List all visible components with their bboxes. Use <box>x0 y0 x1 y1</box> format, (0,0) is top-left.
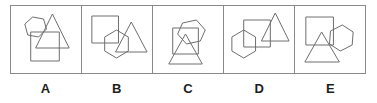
option-label-e: E <box>295 79 366 99</box>
shape-group-d <box>224 6 294 73</box>
option-panel-e[interactable] <box>295 6 365 73</box>
shape-group-b <box>82 6 152 73</box>
shape-group-a <box>11 6 81 73</box>
option-panel-c[interactable] <box>153 6 224 73</box>
option-label-a: A <box>10 79 81 99</box>
option-label-c: C <box>152 79 223 99</box>
option-panel-b[interactable] <box>82 6 153 73</box>
option-panel-strip <box>10 5 366 74</box>
option-panel-a[interactable] <box>11 6 82 73</box>
option-panel-d[interactable] <box>224 6 295 73</box>
triangle-shape <box>36 14 70 48</box>
shape-group-c <box>153 6 223 73</box>
square-shape <box>244 20 271 47</box>
option-label-d: D <box>224 79 295 99</box>
option-label-row: A B C D E <box>10 79 366 99</box>
triangle-shape <box>261 13 289 41</box>
answer-options-figure: A B C D E <box>0 0 377 103</box>
hexagon-shape <box>25 17 47 37</box>
triangle-shape <box>169 34 203 64</box>
shape-group-e <box>295 6 365 73</box>
option-label-b: B <box>81 79 152 99</box>
triangle-shape <box>116 22 148 52</box>
